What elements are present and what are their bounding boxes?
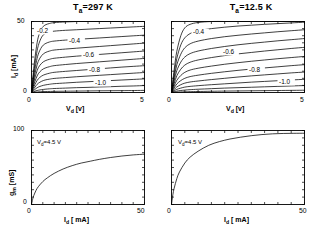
x-tick-right-gm-12p5k: 50	[299, 207, 307, 214]
plot-svg-iv-12p5k: -0.4-0.6-0.8-1.0	[171, 21, 305, 93]
y-tick-bottom-gm-297k: 0	[23, 198, 27, 205]
curve-label: -0.6	[223, 48, 234, 55]
data-curve	[32, 35, 145, 92]
ticks-gm-297k	[32, 131, 145, 205]
plot-frame-4	[172, 131, 305, 205]
x-tick-right-iv-297k: 5	[140, 96, 144, 103]
ylabel-symbol-3: g	[8, 192, 15, 196]
xlabel-unit-2: [v]	[234, 105, 245, 112]
y-axis-label-iv-297k: Id [mA]	[10, 55, 19, 78]
y-axis-label-gm-297k: gm [mS]	[8, 170, 17, 196]
ticks-gm-12p5k	[172, 131, 305, 205]
figure-root: Ta=297 K Id [mA] 50 0 0 5 Vd [v] -0.2-0.…	[0, 0, 318, 231]
x-axis-label-iv-297k: Vd [v]	[66, 105, 84, 114]
x-tick-left-gm-297k: 0	[27, 207, 31, 214]
panel-title-iv-297k: Ta=297 K	[38, 2, 148, 14]
x-tick-right-gm-297k: 50	[137, 207, 145, 214]
data-curve	[32, 154, 145, 204]
y-tick-top-iv-297k: 50	[17, 17, 25, 24]
curve-label: -0.6	[83, 51, 94, 58]
plot-svg-gm-12p5k	[171, 130, 305, 205]
xlabel-unit-4: [ mA]	[229, 216, 249, 223]
plot-area-gm-297k	[31, 130, 145, 205]
curve-label: -1.0	[95, 79, 106, 86]
curve-label: -1.0	[279, 78, 290, 85]
x-axis-label-iv-12p5k: Vd [v]	[226, 105, 244, 114]
plot-area-iv-12p5k: -0.4-0.6-0.8-1.0	[171, 21, 305, 93]
panel-title-iv-12p5k: Ta=12.5 K	[196, 2, 306, 14]
y-tick-top-gm-297k: 100	[13, 125, 24, 132]
data-curve	[172, 133, 305, 204]
x-axis-label-gm-297k: Id [ mA]	[64, 216, 89, 225]
x-tick-right-iv-12p5k: 5	[300, 96, 304, 103]
curve-label: -0.4	[69, 37, 80, 44]
plot-frame-3	[32, 131, 145, 205]
curve-label: -0.8	[249, 66, 260, 73]
ylabel-unit-3: [mS]	[8, 170, 15, 188]
y-tick-bottom-iv-297k: 0	[23, 87, 27, 94]
curves-gm-12p5k	[172, 133, 305, 204]
title-value: =297 K	[83, 2, 113, 12]
data-curve	[32, 72, 145, 92]
curve-label: -0.4	[193, 28, 204, 35]
ylabel-subscript: d	[13, 73, 19, 76]
ylabel-subscript-3: m	[11, 187, 17, 192]
plot-svg-gm-297k	[31, 130, 145, 205]
xlabel-unit: [v]	[74, 105, 85, 112]
curve-label: -0.8	[89, 66, 100, 73]
x-tick-left-gm-12p5k: 0	[167, 207, 171, 214]
plot-area-gm-12p5k	[171, 130, 305, 205]
x-tick-left-iv-12p5k: 0	[167, 96, 171, 103]
curves-gm-297k	[32, 154, 145, 204]
plot-area-iv-297k: -0.2-0.4-0.6-0.8-1.0	[31, 21, 145, 93]
ylabel-unit: [mA]	[10, 55, 17, 73]
title-value-2: =12.5 K	[239, 2, 272, 12]
xlabel-unit-3: [ mA]	[69, 216, 89, 223]
x-tick-left-iv-297k: 0	[27, 96, 31, 103]
ylabel-symbol: I	[10, 76, 17, 78]
x-axis-label-gm-12p5k: Id [ mA]	[224, 216, 249, 225]
curve-label: -0.2	[37, 27, 48, 34]
plot-svg-iv-297k: -0.2-0.4-0.6-0.8-1.0	[31, 21, 145, 93]
